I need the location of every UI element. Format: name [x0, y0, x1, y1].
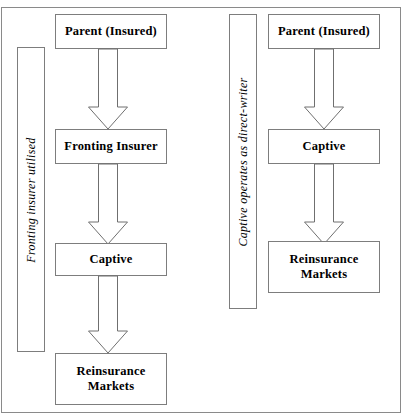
right-node-parent-label: Parent (Insured) — [274, 24, 374, 39]
right-node-parent: Parent (Insured) — [268, 14, 380, 49]
left-panel-side-label-box: Fronting insurer utilised — [17, 47, 45, 352]
left-arrow-captive-to-reinsurance — [88, 276, 128, 354]
right-panel-side-label-text: Captive operates as direct-writer — [236, 77, 251, 246]
left-arrow-fronting-to-captive — [88, 164, 128, 245]
right-arrow-parent-to-captive — [304, 49, 344, 130]
flow-diagram: Figure Fronting insurer utilised Parent … — [0, 0, 404, 416]
left-node-reinsurance-markets: Reinsurance Markets — [55, 353, 167, 405]
left-node-reinsurance-markets-label: Reinsurance Markets — [73, 364, 150, 394]
right-panel-side-label-box: Captive operates as direct-writer — [229, 14, 257, 309]
right-node-captive: Captive — [268, 129, 380, 164]
left-node-captive: Captive — [55, 243, 167, 276]
right-node-reinsurance-markets: Reinsurance Markets — [268, 241, 380, 293]
right-arrow-captive-to-reinsurance — [304, 164, 344, 245]
left-node-parent: Parent (Insured) — [55, 14, 167, 49]
left-node-parent-label: Parent (Insured) — [61, 24, 161, 39]
left-node-captive-label: Captive — [85, 252, 136, 267]
left-panel-side-label-text: Fronting insurer utilised — [24, 137, 39, 262]
left-node-fronting-insurer: Fronting Insurer — [55, 129, 167, 164]
left-node-fronting-insurer-label: Fronting Insurer — [60, 139, 161, 154]
right-node-reinsurance-markets-label: Reinsurance Markets — [286, 252, 363, 282]
left-arrow-parent-to-fronting — [88, 49, 128, 130]
right-node-captive-label: Captive — [298, 139, 349, 154]
